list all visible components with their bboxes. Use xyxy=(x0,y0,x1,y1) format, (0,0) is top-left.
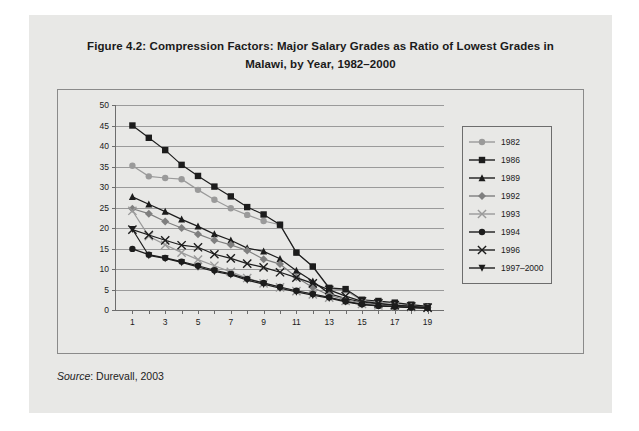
x-axis-label: 11 xyxy=(292,317,301,327)
data-point-marker xyxy=(178,249,186,257)
data-point-marker xyxy=(195,173,201,179)
x-axis-tick xyxy=(329,310,330,314)
data-point-marker xyxy=(145,210,153,218)
y-axis-label: 25 xyxy=(100,203,109,213)
x-axis-tick xyxy=(149,310,150,314)
legend-label: 1989 xyxy=(501,173,520,183)
y-axis-tick xyxy=(112,310,116,311)
x-axis-label: 19 xyxy=(423,317,432,327)
series-1989 xyxy=(129,193,431,311)
legend-item-1986[interactable]: 1986 xyxy=(467,151,546,169)
data-point-marker xyxy=(211,183,217,189)
data-point-marker xyxy=(129,162,135,168)
x-axis-label: 1 xyxy=(130,317,135,327)
data-point-marker xyxy=(211,230,218,237)
x-axis-label: 9 xyxy=(261,317,266,327)
data-point-marker xyxy=(293,267,300,274)
x-axis-tick xyxy=(198,310,199,314)
data-point-marker xyxy=(195,187,201,193)
data-point-marker xyxy=(243,260,251,268)
data-point-marker xyxy=(178,224,186,232)
data-point-marker xyxy=(228,205,234,211)
data-point-marker xyxy=(244,204,250,210)
x-axis-tick xyxy=(296,310,297,314)
x-axis-tick xyxy=(313,310,314,314)
data-point-marker xyxy=(260,263,268,271)
data-point-marker xyxy=(260,211,266,217)
series-line xyxy=(132,126,427,307)
y-axis-label: 10 xyxy=(100,264,109,274)
data-point-marker xyxy=(146,135,152,141)
legend-key-icon xyxy=(467,243,497,257)
x-axis-tick xyxy=(132,310,133,314)
series-1996 xyxy=(128,226,431,312)
data-point-marker xyxy=(260,218,266,224)
legend-key-icon xyxy=(467,153,497,167)
legend-label: 1993 xyxy=(501,209,520,219)
data-point-marker xyxy=(277,222,283,228)
data-point-marker xyxy=(145,231,153,239)
series-1997-2000 xyxy=(129,226,431,312)
y-axis-label: 0 xyxy=(104,305,109,315)
legend-key-icon xyxy=(467,171,497,185)
legend-label: 1996 xyxy=(501,245,520,255)
source-label: Source xyxy=(57,370,90,382)
x-axis-label: 15 xyxy=(357,317,366,327)
y-axis-label: 50 xyxy=(100,100,109,110)
y-axis-label: 20 xyxy=(100,223,109,233)
x-axis-tick xyxy=(247,310,248,314)
data-point-marker xyxy=(276,268,284,276)
plot-area: 05101520253035404550135791113151719 xyxy=(115,105,444,311)
data-point-marker xyxy=(145,200,152,207)
chart-frame: 05101520253035404550135791113151719 1982… xyxy=(57,89,584,354)
data-point-marker xyxy=(211,197,217,203)
data-point-marker xyxy=(210,250,218,258)
data-point-marker xyxy=(243,247,251,255)
y-axis-label: 40 xyxy=(100,141,109,151)
x-axis-tick xyxy=(214,310,215,314)
legend-item-1996[interactable]: 1996 xyxy=(467,241,546,259)
legend-label: 1992 xyxy=(501,191,520,201)
legend-key-icon xyxy=(467,225,497,239)
data-point-marker xyxy=(129,246,135,252)
x-axis-tick xyxy=(346,310,347,314)
data-point-marker xyxy=(162,175,168,181)
data-point-marker xyxy=(228,193,234,199)
data-point-marker xyxy=(161,217,169,225)
data-point-marker xyxy=(178,216,185,223)
x-axis-tick xyxy=(362,310,363,314)
y-axis-label: 15 xyxy=(100,244,109,254)
x-axis-label: 7 xyxy=(228,317,233,327)
legend-item-1993[interactable]: 1993 xyxy=(467,205,546,223)
figure-title: Figure 4.2: Compression Factors: Major S… xyxy=(69,37,572,73)
legend-item-1982[interactable]: 1982 xyxy=(467,133,546,151)
figure-panel: Figure 4.2: Compression Factors: Major S… xyxy=(29,15,612,413)
y-axis-label: 30 xyxy=(100,182,109,192)
data-point-marker xyxy=(162,147,168,153)
data-point-marker xyxy=(178,162,184,168)
legend-item-1997-2000[interactable]: 1997–2000 xyxy=(467,259,546,277)
legend-key-icon xyxy=(467,261,497,275)
legend-item-1994[interactable]: 1994 xyxy=(467,223,546,241)
data-point-marker xyxy=(161,241,169,249)
legend-item-1989[interactable]: 1989 xyxy=(467,169,546,187)
x-axis-tick xyxy=(231,310,232,314)
y-axis-label: 5 xyxy=(104,285,109,295)
x-axis-label: 17 xyxy=(390,317,399,327)
data-point-marker xyxy=(162,208,169,215)
legend-label: 1986 xyxy=(501,155,520,165)
data-point-marker xyxy=(310,263,316,269)
x-axis-tick xyxy=(264,310,265,314)
legend-label: 1982 xyxy=(501,137,520,147)
legend-item-1992[interactable]: 1992 xyxy=(467,187,546,205)
x-axis-tick xyxy=(182,310,183,314)
x-axis-tick xyxy=(280,310,281,314)
y-axis-label: 35 xyxy=(100,162,109,172)
x-axis-label: 5 xyxy=(196,317,201,327)
data-point-marker xyxy=(146,173,152,179)
screenshot-root: Figure 4.2: Compression Factors: Major S… xyxy=(0,0,639,431)
data-point-marker xyxy=(342,286,348,292)
x-axis-tick xyxy=(378,310,379,314)
x-axis-tick xyxy=(165,310,166,314)
data-point-marker xyxy=(244,212,250,218)
